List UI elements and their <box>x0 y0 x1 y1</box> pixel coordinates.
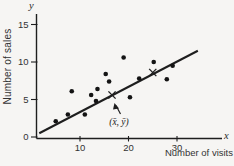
y-tick-label: 0 <box>23 131 28 142</box>
scatter-point <box>53 119 58 124</box>
scatter-plot-figure: 051015102030 y x Number of sales Number … <box>0 0 234 166</box>
x-tick-label: 10 <box>75 142 86 153</box>
y-axis-title: Number of sales <box>2 2 15 132</box>
scatter-point <box>103 72 108 77</box>
scatter-point <box>89 93 94 98</box>
mean-point-annotation: (x̄, ȳ) <box>97 117 141 127</box>
y-axis-symbol: y <box>29 0 34 11</box>
scatter-point <box>137 76 142 81</box>
scatter-point <box>121 55 126 60</box>
scatter-point <box>95 87 100 92</box>
y-tick-label: 15 <box>18 19 29 30</box>
scatter-point <box>151 60 156 65</box>
scatter-plot-canvas: 051015102030 <box>0 0 234 166</box>
x-axis-title: Number of visits <box>128 147 233 158</box>
scatter-point <box>83 112 88 117</box>
scatter-point <box>69 89 74 94</box>
y-tick-label: 5 <box>23 94 28 105</box>
scatter-point <box>94 99 99 104</box>
scatter-point <box>128 95 133 100</box>
scatter-point <box>107 79 112 84</box>
scatter-point <box>170 63 175 68</box>
y-tick-label: 10 <box>18 56 29 67</box>
scatter-point <box>165 77 170 82</box>
scatter-point <box>66 112 71 117</box>
annotation-arrow-head <box>113 103 119 110</box>
x-axis-symbol: x <box>224 130 229 141</box>
